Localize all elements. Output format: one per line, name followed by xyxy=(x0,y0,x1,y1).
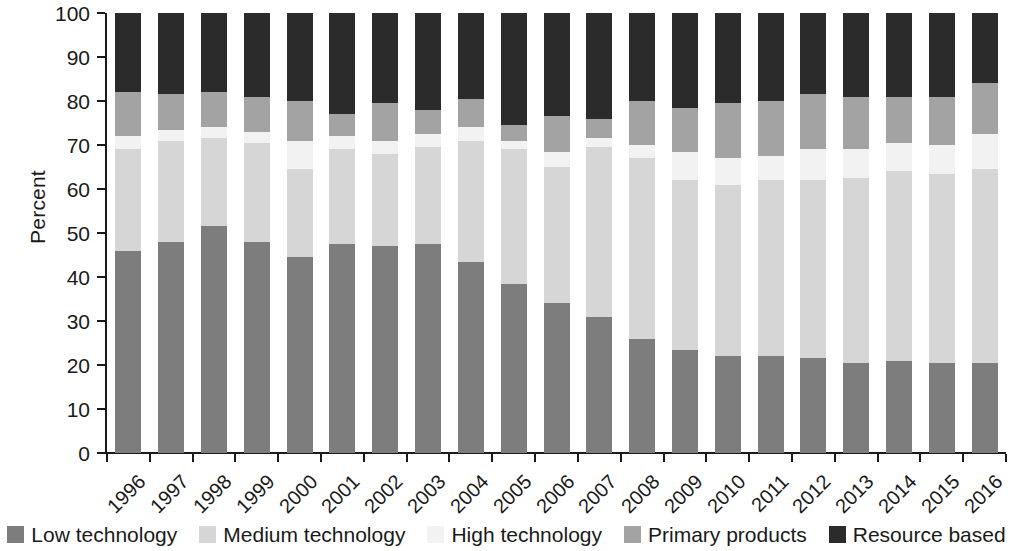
bar-column[interactable] xyxy=(287,13,313,453)
bar-column[interactable] xyxy=(415,13,441,453)
bar-segment[interactable] xyxy=(158,94,184,129)
bar-segment[interactable] xyxy=(244,242,270,453)
bar-segment[interactable] xyxy=(201,127,227,138)
bar-column[interactable] xyxy=(201,13,227,453)
bar-segment[interactable] xyxy=(972,169,998,363)
bar-segment[interactable] xyxy=(115,13,141,92)
bar-segment[interactable] xyxy=(244,143,270,242)
bar-segment[interactable] xyxy=(629,158,655,338)
bar-segment[interactable] xyxy=(415,13,441,110)
bar-segment[interactable] xyxy=(672,13,698,108)
bar-segment[interactable] xyxy=(800,358,826,453)
bar-segment[interactable] xyxy=(758,356,784,453)
bar-segment[interactable] xyxy=(501,125,527,140)
bar-segment[interactable] xyxy=(244,132,270,143)
bar-segment[interactable] xyxy=(244,97,270,132)
bar-segment[interactable] xyxy=(672,350,698,453)
bar-segment[interactable] xyxy=(158,130,184,141)
bar-segment[interactable] xyxy=(929,145,955,174)
bar-segment[interactable] xyxy=(115,251,141,453)
bar-segment[interactable] xyxy=(458,127,484,140)
bar-segment[interactable] xyxy=(329,136,355,149)
bar-column[interactable] xyxy=(458,13,484,453)
bar-segment[interactable] xyxy=(372,246,398,453)
bar-segment[interactable] xyxy=(115,136,141,149)
bar-segment[interactable] xyxy=(115,92,141,136)
bar-segment[interactable] xyxy=(586,13,612,119)
bar-segment[interactable] xyxy=(287,13,313,101)
bar-segment[interactable] xyxy=(758,101,784,156)
bar-segment[interactable] xyxy=(458,262,484,453)
bar-segment[interactable] xyxy=(201,13,227,92)
bar-segment[interactable] xyxy=(372,103,398,140)
bar-segment[interactable] xyxy=(715,185,741,357)
bar-column[interactable] xyxy=(886,13,912,453)
bar-segment[interactable] xyxy=(629,145,655,158)
bar-column[interactable] xyxy=(629,13,655,453)
bar-segment[interactable] xyxy=(329,149,355,244)
bar-segment[interactable] xyxy=(843,178,869,363)
bar-segment[interactable] xyxy=(372,141,398,154)
bar-column[interactable] xyxy=(672,13,698,453)
bar-segment[interactable] xyxy=(929,174,955,363)
bar-column[interactable] xyxy=(158,13,184,453)
bar-segment[interactable] xyxy=(287,257,313,453)
bar-column[interactable] xyxy=(715,13,741,453)
legend-item[interactable]: High technology xyxy=(427,524,602,545)
bar-segment[interactable] xyxy=(501,141,527,150)
bar-column[interactable] xyxy=(244,13,270,453)
bar-segment[interactable] xyxy=(929,97,955,145)
bar-column[interactable] xyxy=(843,13,869,453)
bar-segment[interactable] xyxy=(629,101,655,145)
bar-segment[interactable] xyxy=(586,147,612,316)
bar-segment[interactable] xyxy=(715,103,741,158)
bar-segment[interactable] xyxy=(544,152,570,167)
legend-item[interactable]: Primary products xyxy=(624,524,807,545)
bar-segment[interactable] xyxy=(329,13,355,114)
bar-segment[interactable] xyxy=(287,141,313,170)
bar-segment[interactable] xyxy=(544,13,570,116)
bar-segment[interactable] xyxy=(758,13,784,101)
bar-segment[interactable] xyxy=(372,154,398,246)
bar-segment[interactable] xyxy=(800,180,826,358)
bar-segment[interactable] xyxy=(458,13,484,99)
legend-item[interactable]: Low technology xyxy=(7,524,177,545)
bar-segment[interactable] xyxy=(287,169,313,257)
bar-segment[interactable] xyxy=(629,339,655,453)
bar-segment[interactable] xyxy=(929,363,955,453)
bar-segment[interactable] xyxy=(843,97,869,150)
bar-segment[interactable] xyxy=(843,363,869,453)
bar-segment[interactable] xyxy=(501,149,527,283)
bar-segment[interactable] xyxy=(115,149,141,250)
bar-column[interactable] xyxy=(544,13,570,453)
bar-segment[interactable] xyxy=(201,138,227,226)
bar-column[interactable] xyxy=(800,13,826,453)
bar-segment[interactable] xyxy=(886,361,912,453)
bar-segment[interactable] xyxy=(672,108,698,152)
bar-segment[interactable] xyxy=(415,244,441,453)
bar-segment[interactable] xyxy=(843,149,869,178)
bar-segment[interactable] xyxy=(415,110,441,134)
bar-segment[interactable] xyxy=(372,13,398,103)
bar-segment[interactable] xyxy=(972,363,998,453)
bar-segment[interactable] xyxy=(715,158,741,184)
bar-segment[interactable] xyxy=(586,317,612,453)
legend-item[interactable]: Medium technology xyxy=(199,524,405,545)
bar-segment[interactable] xyxy=(458,99,484,128)
bar-segment[interactable] xyxy=(886,97,912,143)
bar-segment[interactable] xyxy=(329,114,355,136)
bar-segment[interactable] xyxy=(158,141,184,242)
bar-segment[interactable] xyxy=(544,116,570,151)
bar-segment[interactable] xyxy=(158,13,184,94)
bar-column[interactable] xyxy=(929,13,955,453)
bar-segment[interactable] xyxy=(201,226,227,453)
bar-segment[interactable] xyxy=(586,138,612,147)
bar-segment[interactable] xyxy=(287,101,313,141)
bar-segment[interactable] xyxy=(886,171,912,360)
bar-segment[interactable] xyxy=(843,13,869,97)
bar-segment[interactable] xyxy=(629,13,655,101)
bar-column[interactable] xyxy=(501,13,527,453)
bar-segment[interactable] xyxy=(715,13,741,103)
bar-column[interactable] xyxy=(758,13,784,453)
bar-segment[interactable] xyxy=(886,13,912,97)
